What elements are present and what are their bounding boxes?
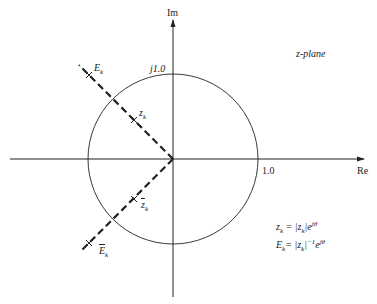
- z-plane-diagram: [0, 0, 377, 304]
- label-z-k: zk: [139, 108, 146, 118]
- marker-E-k: [86, 72, 92, 78]
- dashed-ray-upper: [79, 65, 173, 159]
- equation-z-k: zk = |zk|ejθ: [276, 222, 317, 232]
- plane-label: z-plane: [296, 49, 325, 59]
- label-E-k-conjugate: Ek: [99, 246, 108, 256]
- real-axis-label: Re: [357, 166, 368, 176]
- dashed-ray-lower: [80, 159, 173, 252]
- imag-axis-label: Im: [167, 8, 178, 18]
- marker-z-k: [131, 117, 137, 123]
- imag-unit-tick-label: j1.0: [150, 64, 165, 74]
- label-z-k-conjugate: zk: [141, 200, 148, 210]
- real-unit-tick-label: 1.0: [262, 166, 275, 176]
- equation-E-k: Ek= |zk|−1ejθ: [276, 240, 325, 250]
- marker-E-k-conj: [86, 240, 92, 246]
- label-E-k: Ek: [94, 63, 103, 73]
